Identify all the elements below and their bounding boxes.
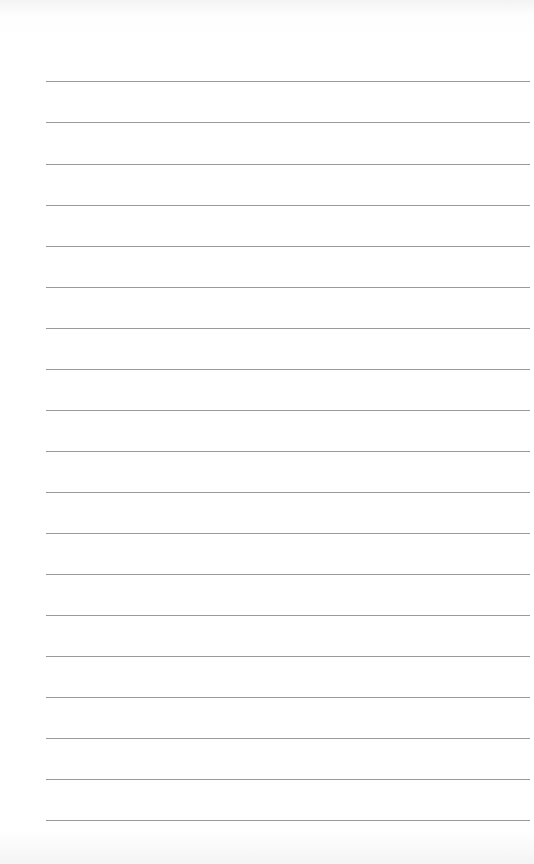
ruled-line-18 [46,779,530,780]
ruled-line-16 [46,697,530,698]
ruled-line-2 [46,122,530,123]
ruled-line-9 [46,410,530,411]
ruled-line-11 [46,492,530,493]
ruled-line-14 [46,615,530,616]
ruled-line-3 [46,164,530,165]
ruled-line-19 [46,820,530,821]
ruled-line-7 [46,328,530,329]
ruled-line-1 [46,81,530,82]
ruled-line-15 [46,656,530,657]
ruled-line-12 [46,533,530,534]
ruled-line-6 [46,287,530,288]
ruled-line-17 [46,738,530,739]
ruled-line-5 [46,246,530,247]
ruled-line-10 [46,451,530,452]
ruled-line-13 [46,574,530,575]
lined-paper-page [0,0,534,864]
ruled-line-8 [46,369,530,370]
ruled-line-4 [46,205,530,206]
